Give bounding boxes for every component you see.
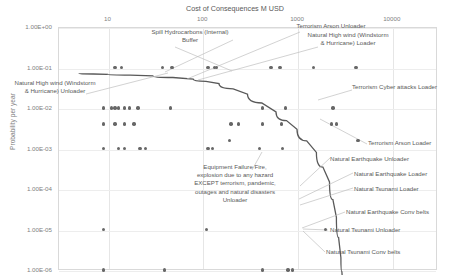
data-point (102, 122, 105, 125)
y-tick-label-1.00E-02: 1.00E-02 (6, 104, 52, 111)
x-tick-label-10000: 10000 (372, 15, 412, 22)
annotation-natural-high-wind-unloader: Natural High wind (Windstorm & Hurricane… (2, 79, 108, 95)
data-point (261, 268, 264, 271)
data-point (205, 228, 208, 231)
annotation-natural-earthquake-unloader: Natural Earthquake Unloader (330, 155, 448, 163)
x-gridline-10 (109, 28, 110, 269)
x-tick-label-10: 10 (88, 15, 128, 22)
annotation-natural-earthquake-conv-belts: Natural Earthquake Conv belts (346, 208, 449, 216)
annotation-natural-high-wind-loader: Natural High wind (Windstorm & Hurricane… (290, 31, 406, 47)
data-point (286, 268, 289, 271)
data-point (330, 122, 333, 125)
data-point (261, 106, 264, 109)
data-point (128, 106, 131, 109)
data-point (136, 106, 139, 109)
annotation-natural-earthquake-loader: Natural Earthquake Loader (354, 170, 449, 178)
y-tick-label-1.00E-05: 1.00E-05 (6, 226, 52, 233)
data-point (170, 66, 173, 69)
data-point (335, 122, 338, 125)
data-point (132, 122, 135, 125)
data-point (229, 122, 232, 125)
annotation-terrorism-cyber-attacks-loader: Terrorism Cyber attacks Loader (352, 83, 449, 91)
data-point (113, 122, 116, 125)
data-point (113, 66, 116, 69)
data-point (102, 106, 105, 109)
data-point (237, 122, 240, 125)
y-gridline-3 (59, 150, 436, 151)
data-point (206, 147, 209, 150)
y-tick-label-1.00E+00: 1.00E+00 (6, 23, 52, 30)
data-point (123, 106, 126, 109)
data-point (261, 122, 264, 125)
data-point (269, 66, 272, 69)
risk-scatter-chart: Cost of Consequences M USD Probability p… (0, 0, 449, 275)
y-tick-label-1.00E-01: 1.00E-01 (6, 64, 52, 71)
annotation-terrorism-arson-unloader: Terrorism Arson Unloader (272, 22, 390, 30)
y-tick-label-1.00E-03: 1.00E-03 (6, 145, 52, 152)
data-point (123, 147, 126, 150)
data-point (102, 228, 105, 231)
data-point (102, 147, 105, 150)
data-point (123, 122, 126, 125)
data-point (354, 66, 357, 69)
data-point (356, 139, 359, 142)
x-tick-label-100: 100 (182, 15, 222, 22)
data-point (163, 268, 166, 271)
x-gridline-1000 (298, 28, 299, 269)
x-tick-label-1000: 1000 (277, 15, 317, 22)
x-axis-title: Cost of Consequences M USD (186, 4, 284, 13)
annotation-natural-tsunami-loader: Natural Tsunami Loader (354, 185, 449, 193)
data-point (278, 66, 281, 69)
data-point (102, 268, 105, 271)
annotation-natural-tsunami-conv-belts: Natural Tsunami Conv belts (326, 248, 438, 256)
data-point (138, 147, 141, 150)
data-point (117, 106, 120, 109)
annotation-natural-tsunami-unloader: Natural Tsunami Unloader (330, 226, 440, 234)
annotation-spill-hydrocarbons-internal-buffer: Spill Hydrocarbons (Internal) Buffer (134, 28, 246, 44)
data-point (169, 106, 172, 109)
y-tick-label-1.00E-06: 1.00E-06 (6, 266, 52, 273)
x-gridline-100 (203, 28, 204, 269)
y-gridline-6 (59, 271, 436, 272)
y-tick-label-1.00E-04: 1.00E-04 (6, 185, 52, 192)
annotation-equipment-failure-fire-unloader: Equipment Failure Fire, explosion due to… (178, 163, 292, 204)
data-point (331, 106, 334, 109)
data-point (206, 66, 209, 69)
annotation-terrorism-arson-loader: Terrorism Arson Loader (368, 139, 449, 147)
